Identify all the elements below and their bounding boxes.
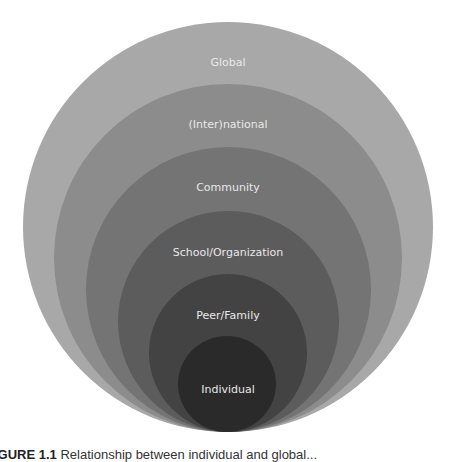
label-school-organization: School/Organization	[0, 246, 456, 260]
figure-caption: IGURE 1.1 Relationship between individua…	[0, 447, 317, 462]
label-global: Global	[0, 56, 456, 70]
label-individual: Individual	[0, 383, 456, 397]
figure-number: IGURE 1.1	[0, 447, 57, 462]
figure-caption-text: Relationship between individual and glob…	[60, 447, 317, 462]
label-peer-family: Peer/Family	[0, 309, 456, 323]
label-international: (Inter)national	[0, 118, 456, 132]
label-community: Community	[0, 181, 456, 195]
